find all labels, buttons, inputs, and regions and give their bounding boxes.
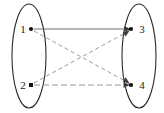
bipartite-graph-diagram: 1 2 3 4: [0, 0, 164, 113]
edge-2-to-3: [34, 32, 127, 83]
node-label-2: 2: [20, 79, 26, 91]
edge-1-to-4: [34, 31, 127, 82]
node-label-1: 1: [20, 23, 26, 35]
node-label-4: 4: [139, 79, 145, 91]
node-dot-1: [29, 27, 33, 31]
left-node-set-ellipse: [12, 4, 46, 108]
node-dot-4: [129, 83, 133, 87]
node-label-3: 3: [139, 23, 145, 35]
node-dot-3: [129, 27, 133, 31]
node-dot-2: [29, 83, 33, 87]
diagram-canvas: 1 2 3 4: [0, 0, 164, 113]
right-node-set-ellipse: [122, 4, 156, 108]
